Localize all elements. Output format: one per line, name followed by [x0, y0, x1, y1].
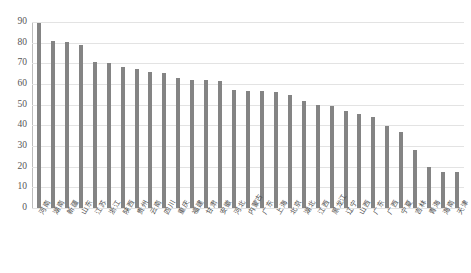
y-axis-tick-label: 20	[0, 162, 27, 172]
bar	[162, 73, 166, 208]
bar	[79, 45, 83, 208]
bar	[385, 126, 389, 208]
bar	[316, 105, 320, 208]
y-axis-tick-label: 90	[0, 17, 27, 27]
bar	[330, 106, 334, 208]
bar	[51, 41, 55, 208]
y-axis-tick-label: 60	[0, 79, 27, 89]
y-axis-tick-label: 30	[0, 141, 27, 151]
bar	[204, 80, 208, 208]
bar	[190, 80, 194, 208]
bar	[413, 150, 417, 208]
y-axis-tick-label: 80	[0, 38, 27, 48]
bar	[65, 42, 69, 208]
bar	[218, 81, 222, 208]
bar	[121, 67, 125, 208]
bar	[371, 117, 375, 208]
bar	[37, 23, 41, 208]
y-axis-tick-label: 10	[0, 183, 27, 193]
y-axis-tick-label: 0	[0, 203, 27, 213]
bar	[176, 78, 180, 208]
bar	[107, 63, 111, 208]
x-axis-labels: 河南湖南新疆山东江苏浙江陕西贵州云南四川重庆福建甘肃安徽河北内蒙古广东上海北京湖…	[32, 210, 464, 272]
bar	[246, 91, 250, 208]
bar	[399, 132, 403, 208]
bar	[344, 111, 348, 208]
bar	[93, 62, 97, 208]
bar	[232, 90, 236, 208]
bar	[148, 72, 152, 208]
bar	[288, 95, 292, 208]
bar	[260, 91, 264, 208]
y-axis-tick-label: 40	[0, 121, 27, 131]
bar	[274, 92, 278, 208]
y-axis-tick-label: 70	[0, 59, 27, 69]
bar-series	[32, 22, 464, 208]
bar	[427, 167, 431, 208]
bar	[302, 101, 306, 208]
bar	[135, 69, 139, 209]
y-axis-tick-label: 50	[0, 100, 27, 110]
bar-chart: 0102030405060708090 河南湖南新疆山东江苏浙江陕西贵州云南四川…	[0, 0, 471, 273]
bar	[357, 114, 361, 208]
